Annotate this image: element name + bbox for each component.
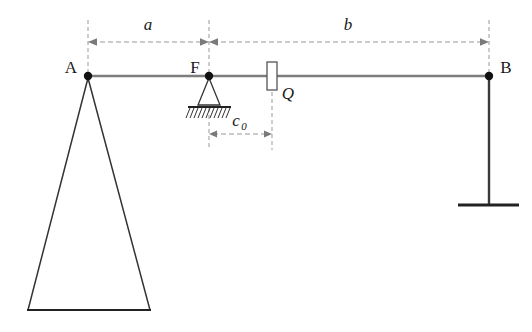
label-point-f: F xyxy=(190,58,199,77)
dimension-c0-arrow-right xyxy=(264,131,272,138)
node-f xyxy=(205,72,213,80)
dimension-a-arrow-right xyxy=(200,38,209,46)
support-f-triangle xyxy=(198,78,220,105)
dimension-b-arrow-right xyxy=(480,38,489,46)
label-point-a: A xyxy=(65,58,78,77)
dimension-b-arrow-left xyxy=(209,38,218,46)
dimension-c0: c 0 xyxy=(209,111,272,137)
diagram-canvas: a b c 0 xyxy=(0,0,532,332)
dimension-c0-subscript: 0 xyxy=(241,120,247,132)
node-b xyxy=(485,72,493,80)
node-a xyxy=(84,72,92,80)
load-block-q xyxy=(267,62,277,90)
load-block-q-rect xyxy=(267,62,277,90)
support-f-hatching xyxy=(186,108,230,118)
support-b-column xyxy=(458,78,519,205)
label-point-b: B xyxy=(500,58,511,77)
support-f-pin xyxy=(186,78,231,118)
support-a-triangle-outline xyxy=(28,78,150,310)
support-a-triangle xyxy=(27,78,151,310)
dimension-c0-arrow-left xyxy=(209,131,217,138)
beam-diagram: a b c 0 xyxy=(0,0,532,332)
dimension-b-label: b xyxy=(344,15,353,34)
dimension-a-arrow-left xyxy=(88,38,97,46)
dimension-a: a xyxy=(88,15,209,46)
dimension-c0-label: c xyxy=(232,111,240,130)
dimension-a-label: a xyxy=(144,15,153,34)
dimension-b: b xyxy=(209,15,489,46)
label-load-q: Q xyxy=(282,84,294,103)
